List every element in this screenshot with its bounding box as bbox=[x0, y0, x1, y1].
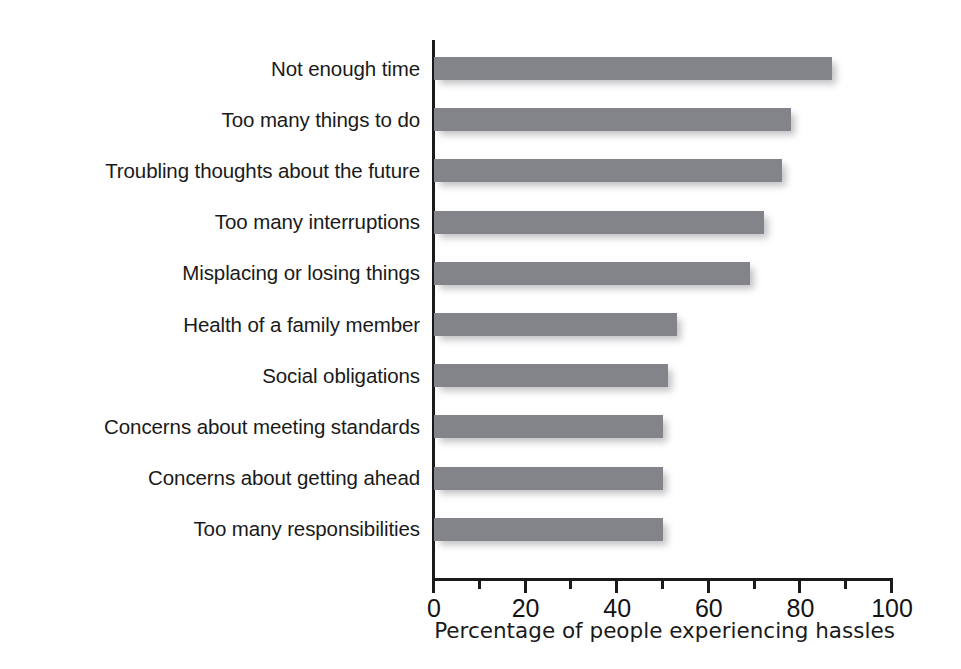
x-tick-major bbox=[615, 578, 618, 593]
bar bbox=[434, 57, 832, 80]
category-label: Social obligations bbox=[262, 366, 420, 387]
bar bbox=[434, 211, 764, 234]
bar bbox=[434, 364, 668, 387]
bar bbox=[434, 159, 782, 182]
category-label: Too many things to do bbox=[222, 110, 420, 131]
bar bbox=[434, 467, 663, 490]
category-label: Concerns about meeting standards bbox=[104, 417, 420, 438]
x-tick-minor bbox=[844, 578, 847, 589]
x-axis-title: Percentage of people experiencing hassle… bbox=[432, 620, 897, 642]
bar bbox=[434, 108, 791, 131]
x-tick-minor bbox=[661, 578, 664, 589]
x-tick-minor bbox=[753, 578, 756, 589]
x-tick-minor bbox=[478, 578, 481, 589]
x-tick-major bbox=[890, 578, 893, 593]
category-label: Too many interruptions bbox=[215, 212, 420, 233]
bar bbox=[434, 262, 750, 285]
bar bbox=[434, 518, 663, 541]
x-tick-major bbox=[432, 578, 435, 593]
bar bbox=[434, 313, 677, 336]
x-tick-minor bbox=[569, 578, 572, 589]
category-label: Troubling thoughts about the future bbox=[105, 161, 420, 182]
category-label: Concerns about getting ahead bbox=[148, 468, 420, 489]
x-tick-major bbox=[707, 578, 710, 593]
x-tick-major bbox=[524, 578, 527, 593]
bar bbox=[434, 415, 663, 438]
category-label: Too many responsibilities bbox=[193, 519, 420, 540]
x-tick-major bbox=[798, 578, 801, 593]
category-label: Health of a family member bbox=[183, 315, 420, 336]
category-label: Not enough time bbox=[271, 59, 420, 80]
category-label: Misplacing or losing things bbox=[182, 263, 420, 284]
hassles-bar-chart: Not enough timeToo many things to doTrou… bbox=[0, 0, 961, 669]
plot-area: 020406080100 bbox=[432, 40, 897, 580]
